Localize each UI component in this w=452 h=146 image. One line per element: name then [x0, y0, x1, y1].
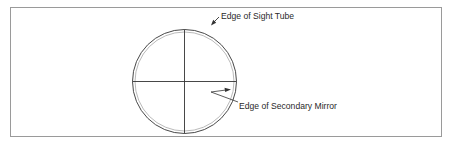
sight-tube-diagram: Edge of Sight Tube Edge of Secondary Mir… [0, 0, 452, 146]
sight-tube-label: Edge of Sight Tube [221, 11, 294, 21]
sight-tube-arrow [211, 17, 219, 26]
secondary-mirror-arrow [211, 88, 238, 102]
secondary-mirror-label: Edge of Secondary Mirror [239, 101, 337, 111]
